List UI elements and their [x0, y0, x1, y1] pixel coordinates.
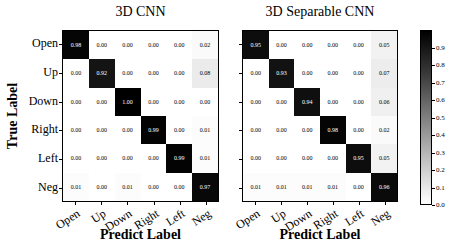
matrix-cell: 0.01: [294, 173, 320, 201]
matrix-cell: 0.00: [346, 59, 372, 87]
matrix-cell: 0.00: [166, 31, 192, 59]
colorbar-tickmark: [432, 83, 435, 84]
colorbar-tickmark: [432, 135, 435, 136]
colorbar-tickmark: [432, 188, 435, 189]
colorbar-tick-label: 0.3: [436, 149, 445, 157]
matrix-cell: 0.01: [63, 173, 89, 201]
matrix-cell: 0.00: [63, 116, 89, 144]
y-tick-label: Left: [0, 151, 58, 166]
matrix-cell: 0.00: [63, 88, 89, 116]
right-matrix-title: 3D Separable CNN: [232, 4, 408, 22]
colorbar-tick-label: 0.2: [436, 166, 445, 174]
x-tickmark: [333, 202, 334, 205]
matrix-cell: 0.98: [320, 116, 346, 144]
matrix-cell: 0.02: [371, 116, 397, 144]
colorbar-tick-label: 0.9: [436, 44, 445, 52]
matrix-cell: 0.00: [141, 31, 167, 59]
y-tickmark: [239, 188, 242, 189]
matrix-cell: 0.01: [243, 173, 269, 201]
matrix-cell: 0.00: [141, 144, 167, 172]
matrix-cell: 0.00: [89, 173, 115, 201]
x-tickmark: [281, 202, 282, 205]
colorbar-tick-label: 0.4: [436, 131, 445, 139]
matrix-cell: 0.07: [371, 59, 397, 87]
matrix-cell: 0.01: [192, 144, 218, 172]
left-matrix-title: 3D CNN: [62, 4, 219, 22]
matrix-cell: 0.00: [320, 59, 346, 87]
colorbar-tick-label: 0.6: [436, 96, 445, 104]
matrix-cell: 0.99: [166, 144, 192, 172]
matrix-cell: 0.05: [371, 31, 397, 59]
matrix-cell: 0.00: [243, 144, 269, 172]
x-tickmark: [307, 202, 308, 205]
matrix-cell: 0.00: [89, 31, 115, 59]
matrix-cell: 0.93: [269, 59, 295, 87]
colorbar: [420, 30, 432, 205]
x-tickmark: [359, 202, 360, 205]
y-tickmark: [239, 73, 242, 74]
matrix-cell: 0.92: [89, 59, 115, 87]
matrix-cell: 0.00: [294, 59, 320, 87]
colorbar-tickmark: [432, 48, 435, 49]
y-tickmark: [59, 73, 62, 74]
x-tickmark: [127, 202, 128, 205]
matrix-cell: 1.00: [115, 88, 141, 116]
matrix-cell: 0.94: [294, 88, 320, 116]
colorbar-tickmark: [432, 153, 435, 154]
matrix-cell: 0.98: [63, 31, 89, 59]
left-confusion-matrix: 0.980.000.000.000.000.020.000.920.000.00…: [62, 30, 219, 202]
y-tickmark: [59, 130, 62, 131]
y-tickmark: [239, 102, 242, 103]
matrix-cell: 0.00: [166, 88, 192, 116]
y-tick-label: Neg: [0, 180, 58, 195]
matrix-cell: 0.00: [243, 59, 269, 87]
matrix-cell: 0.00: [294, 116, 320, 144]
colorbar-tick-label: 0.1: [436, 184, 445, 192]
x-tickmark: [75, 202, 76, 205]
matrix-cell: 0.00: [294, 144, 320, 172]
matrix-cell: 0.00: [346, 116, 372, 144]
x-tickmark: [385, 202, 386, 205]
matrix-cell: 0.00: [166, 173, 192, 201]
x-tickmark: [255, 202, 256, 205]
colorbar-tickmark: [432, 170, 435, 171]
matrix-cell: 0.00: [346, 88, 372, 116]
x-tickmark: [180, 202, 181, 205]
colorbar-tick-label: 0.7: [436, 79, 445, 87]
y-tickmark: [239, 130, 242, 131]
matrix-cell: 0.96: [371, 173, 397, 201]
matrix-cell: 0.00: [294, 31, 320, 59]
x-tickmark: [101, 202, 102, 205]
right-confusion-matrix: 0.950.000.000.000.000.050.000.930.000.00…: [242, 30, 398, 202]
y-tickmark: [59, 188, 62, 189]
y-tick-label: Open: [0, 36, 58, 51]
matrix-cell: 0.00: [63, 59, 89, 87]
matrix-cell: 0.01: [192, 116, 218, 144]
matrix-cell: 0.00: [346, 173, 372, 201]
matrix-cell: 0.00: [320, 88, 346, 116]
colorbar-tick-label: 0.8: [436, 61, 445, 69]
colorbar-tickmark: [432, 118, 435, 119]
colorbar-tickmark: [432, 100, 435, 101]
matrix-cell: 0.00: [89, 88, 115, 116]
y-tickmark: [239, 44, 242, 45]
matrix-cell: 0.00: [320, 31, 346, 59]
matrix-cell: 0.02: [192, 31, 218, 59]
matrix-cell: 0.00: [115, 144, 141, 172]
matrix-cell: 0.99: [141, 116, 167, 144]
matrix-cell: 0.01: [269, 173, 295, 201]
colorbar-tick-label: 0.0: [436, 201, 445, 209]
matrix-cell: 0.00: [166, 116, 192, 144]
matrix-cell: 0.00: [141, 173, 167, 201]
colorbar-tickmark: [432, 205, 435, 206]
matrix-cell: 0.05: [371, 144, 397, 172]
matrix-cell: 0.01: [115, 173, 141, 201]
y-tickmark: [59, 44, 62, 45]
colorbar-tick-label: 0.5: [436, 114, 445, 122]
matrix-cell: 0.00: [346, 31, 372, 59]
y-tick-label: Down: [0, 94, 58, 109]
y-tickmark: [59, 102, 62, 103]
matrix-cell: 0.00: [141, 88, 167, 116]
matrix-cell: 0.00: [243, 88, 269, 116]
matrix-cell: 0.00: [115, 116, 141, 144]
